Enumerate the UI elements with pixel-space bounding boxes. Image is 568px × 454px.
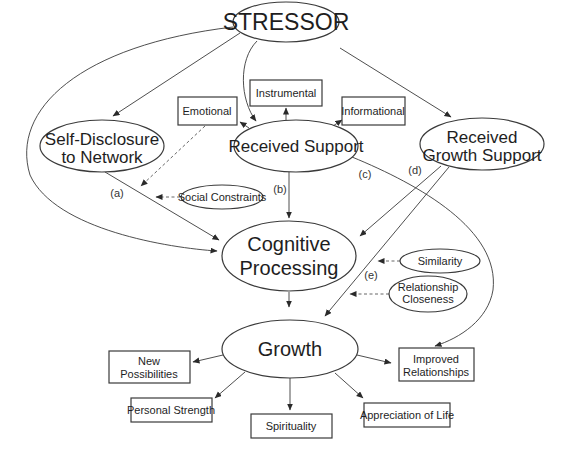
node-growth-label: Growth	[258, 338, 322, 360]
node-improved-relationships-line2: Relationships	[403, 366, 470, 378]
node-personal-strength-label: Personal Strength	[127, 404, 215, 416]
node-new-possibilities-line1: New	[138, 355, 160, 367]
node-stressor: STRESSOR	[223, 2, 350, 42]
node-cognitive-processing-line1: Cognitive	[247, 233, 330, 255]
node-received-growth-support-line1: Received	[447, 128, 518, 147]
path-label-d: (d)	[408, 164, 421, 176]
node-growth: Growth	[222, 320, 358, 378]
node-appreciation-of-life: Appreciation of Life	[360, 403, 454, 427]
node-received-support-label: Received Support	[228, 137, 363, 156]
edge-growth-to-personal-strength	[215, 372, 245, 398]
edge-growth-to-improved-relationships	[357, 355, 391, 363]
node-social-constraints-label: Social Constraints	[178, 191, 267, 203]
node-appreciation-of-life-label: Appreciation of Life	[360, 409, 454, 421]
node-received-growth-support: Received Growth Support	[420, 118, 544, 170]
node-personal-strength: Personal Strength	[127, 398, 215, 422]
node-similarity: Similarity	[400, 249, 480, 273]
edge-growth-to-new-possibilities	[193, 355, 223, 362]
node-cognitive-processing-line2: Processing	[240, 257, 339, 279]
node-self-disclosure: Self-Disclosure to Network	[40, 120, 164, 172]
edge-received-support-to-emotional	[240, 122, 249, 128]
node-received-growth-support-line2: Growth Support	[422, 146, 541, 165]
node-spirituality-label: Spirituality	[266, 420, 317, 432]
path-label-a: (a)	[110, 187, 123, 199]
node-self-disclosure-line2: to Network	[61, 148, 143, 167]
node-cognitive-processing: Cognitive Processing	[222, 221, 356, 291]
node-social-constraints: Social Constraints	[178, 185, 267, 209]
diagram-canvas: (a) (b) (c) (d) (e) STRESSOR Instrumenta…	[0, 0, 568, 454]
node-new-possibilities-line2: Possibilities	[120, 368, 178, 380]
node-instrumental: Instrumental	[250, 80, 322, 106]
node-informational: Informational	[341, 97, 405, 125]
node-improved-relationships: Improved Relationships	[399, 348, 474, 381]
path-label-c: (c)	[359, 168, 372, 180]
node-instrumental-label: Instrumental	[256, 87, 317, 99]
node-relationship-closeness-line2: Closeness	[402, 293, 454, 305]
node-emotional-label: Emotional	[183, 105, 232, 117]
node-informational-label: Informational	[341, 105, 405, 117]
node-stressor-label: STRESSOR	[223, 9, 350, 35]
path-label-b: (b)	[273, 183, 286, 195]
node-spirituality: Spirituality	[251, 414, 332, 438]
node-emotional: Emotional	[178, 97, 237, 125]
edge-growth-to-appreciation-of-life	[335, 373, 363, 398]
node-similarity-label: Similarity	[418, 255, 463, 267]
path-label-e: (e)	[364, 269, 377, 281]
node-new-possibilities: New Possibilities	[109, 351, 190, 383]
node-self-disclosure-line1: Self-Disclosure	[45, 130, 159, 149]
node-improved-relationships-line1: Improved	[413, 353, 459, 365]
node-relationship-closeness: Relationship Closeness	[389, 276, 467, 312]
node-relationship-closeness-line1: Relationship	[398, 281, 459, 293]
